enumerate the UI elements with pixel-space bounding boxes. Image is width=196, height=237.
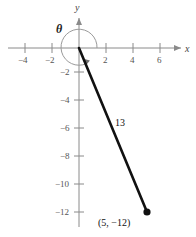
- x-axis-arrowhead: [174, 45, 181, 51]
- endpoint-coordinate-label: (5, −12): [98, 218, 130, 228]
- theta-angle-label: θ: [56, 23, 62, 35]
- y-tick-label--2: −2: [60, 68, 70, 77]
- y-tick-label--12: −12: [55, 208, 69, 217]
- x-tick-label-6: 6: [157, 56, 162, 65]
- y-tick-label--6: −6: [60, 124, 70, 133]
- x-tick-label-4: 4: [130, 56, 135, 65]
- y-axis-label: y: [75, 3, 79, 13]
- x-tick-label--2: −2: [45, 56, 55, 65]
- x-tick-label--4: −4: [18, 56, 28, 65]
- figure-canvas: −4 −2 2 4 6 −2 −4 −6 −8 −10 −12 x y θ 13…: [0, 0, 196, 237]
- y-tick-label--10: −10: [55, 180, 69, 189]
- x-axis-label: x: [185, 44, 189, 54]
- ray-length-label: 13: [115, 118, 125, 128]
- y-axis-arrowhead: [76, 18, 82, 25]
- y-tick-label--8: −8: [60, 152, 70, 161]
- x-tick-label-2: 2: [103, 56, 108, 65]
- y-tick-label--4: −4: [60, 96, 70, 105]
- terminal-ray: [79, 48, 147, 212]
- endpoint-dot: [143, 208, 150, 215]
- diagram-svg: [0, 0, 196, 237]
